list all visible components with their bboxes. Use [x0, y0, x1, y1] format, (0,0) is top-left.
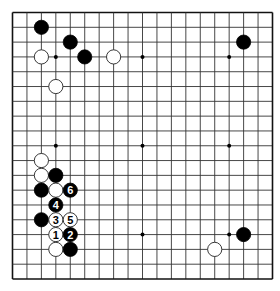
white-stone	[34, 50, 48, 64]
white-stone: 5	[63, 213, 77, 227]
black-stone-icon	[237, 35, 251, 49]
white-stone	[49, 183, 63, 197]
black-stone: 4	[49, 198, 63, 212]
black-stone-icon	[34, 183, 48, 197]
black-stone-icon	[34, 20, 48, 34]
star-point-icon	[54, 55, 58, 59]
white-stone	[208, 242, 222, 256]
black-stone	[34, 20, 48, 34]
white-stone-icon	[34, 168, 48, 182]
white-stone	[49, 79, 63, 93]
white-stone: 1	[49, 227, 63, 241]
move-number: 4	[53, 199, 60, 211]
black-stone	[34, 213, 48, 227]
black-stone-icon	[237, 227, 251, 241]
white-stone-icon	[34, 153, 48, 167]
star-point-icon	[54, 144, 58, 148]
white-stone	[107, 50, 121, 64]
black-stone-icon	[49, 168, 63, 182]
black-stone-icon	[63, 242, 77, 256]
white-stone-icon	[49, 183, 63, 197]
black-stone	[237, 35, 251, 49]
black-stone	[63, 242, 77, 256]
white-stone: 3	[49, 213, 63, 227]
white-stone-icon	[49, 242, 63, 256]
black-stone-icon	[78, 50, 92, 64]
black-stone	[34, 183, 48, 197]
star-point-icon	[141, 233, 145, 237]
move-number: 3	[53, 214, 59, 226]
star-point-icon	[227, 55, 231, 59]
black-stone-icon	[63, 35, 77, 49]
black-stone	[78, 50, 92, 64]
move-number: 6	[67, 184, 73, 196]
black-stone	[63, 35, 77, 49]
white-stone	[34, 153, 48, 167]
star-point-icon	[227, 144, 231, 148]
black-stone: 2	[63, 227, 77, 241]
move-number: 1	[53, 229, 59, 241]
white-stone-icon	[107, 50, 121, 64]
go-board: 643512	[0, 0, 280, 291]
black-stone: 6	[63, 183, 77, 197]
white-stone	[34, 168, 48, 182]
white-stone-icon	[34, 50, 48, 64]
move-number: 2	[67, 229, 73, 241]
move-number: 5	[67, 214, 73, 226]
black-stone	[237, 227, 251, 241]
white-stone-icon	[49, 79, 63, 93]
black-stone-icon	[34, 213, 48, 227]
star-point-icon	[141, 55, 145, 59]
white-stone	[49, 242, 63, 256]
black-stone	[49, 168, 63, 182]
star-point-icon	[227, 233, 231, 237]
star-point-icon	[141, 144, 145, 148]
white-stone-icon	[208, 242, 222, 256]
